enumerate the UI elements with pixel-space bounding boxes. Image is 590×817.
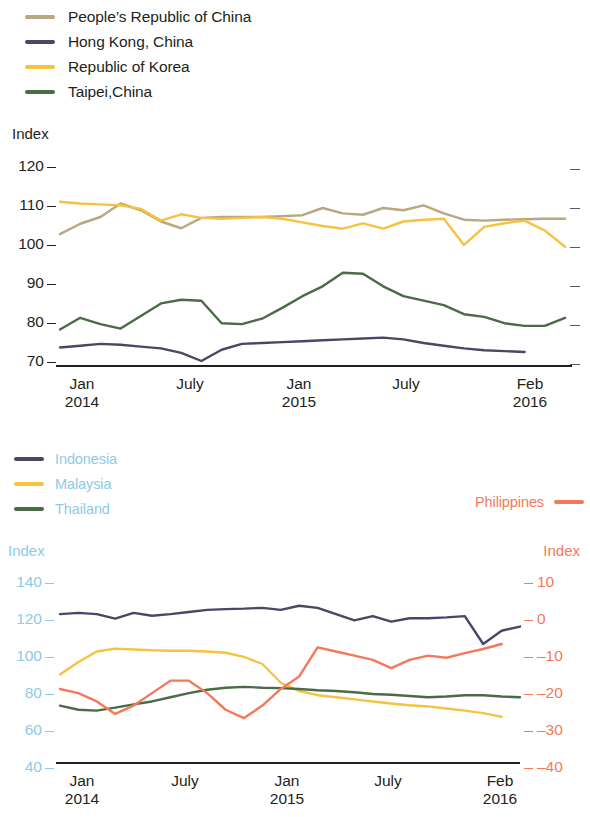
legend-item-hong-kong: Hong Kong, China (0, 29, 251, 54)
chart-2-xtick-jan-2015: Jan 2015 (270, 772, 304, 808)
chart-2-ytick-right-m20: –20 (524, 684, 586, 702)
chart-2-ytick-80: 80 (6, 684, 54, 702)
chart-page: People’s Republic of China Hong Kong, Ch… (0, 0, 590, 817)
line-swatch-icon-prc (25, 15, 55, 19)
series-line-hong-kong-china (60, 338, 525, 361)
chart-1-right-tick-90 (570, 286, 580, 287)
chart-2-xtick-july-2015: July (374, 772, 402, 790)
legend-label-malaysia: Malaysia (55, 476, 111, 492)
chart-1-right-tick-110 (570, 208, 580, 209)
chart-1-xtick-jan-2015: Jan 2015 (282, 375, 316, 411)
chart-2-ytick-60: 60 (6, 721, 54, 739)
chart-1-xtick-feb-2016: Feb 2016 (513, 375, 547, 411)
legend-item-prc: People’s Republic of China (0, 4, 251, 29)
chart-1-ytick-70: 70 (10, 352, 56, 370)
chart-2-plot-area (60, 560, 520, 768)
chart-1-ytick-80: 80 (10, 313, 56, 331)
chart-1-right-tick-100 (570, 247, 580, 248)
chart-1-xtick-july-2015: July (392, 375, 420, 393)
line-swatch-icon-korea (25, 65, 55, 69)
legend-item-taipei: Taipei,China (0, 79, 251, 104)
chart-1-right-tick-120 (570, 169, 580, 170)
legend-top: People’s Republic of China Hong Kong, Ch… (0, 4, 251, 104)
chart-1-x-axis (54, 361, 574, 371)
legend-item-thailand: Thailand (0, 496, 117, 521)
chart-2-ytick-right-m40: –40 (524, 758, 586, 776)
chart-1-ytick-110: 110 (10, 196, 56, 214)
chart-1-right-tick-80 (570, 325, 580, 326)
legend-item-philippines: Philippines (475, 494, 584, 510)
chart-2-ytick-40: 40 (6, 758, 54, 776)
legend-label-taipei: Taipei,China (68, 83, 152, 101)
line-swatch-icon-philippines (554, 500, 584, 504)
chart-2-ytick-120: 120 (6, 610, 54, 628)
legend-label-prc: People’s Republic of China (68, 8, 251, 26)
chart-1-ytick-100: 100 (10, 235, 56, 253)
series-line-taipei-china (60, 273, 565, 330)
chart-1-ytick-90: 90 (10, 274, 56, 292)
series-line-indonesia (60, 606, 520, 644)
line-swatch-icon-indonesia (14, 457, 44, 461)
chart-2-ytick-right-m10: –10 (524, 647, 586, 665)
chart-1-xtick-july-2014: July (176, 375, 204, 393)
chart-2-ytick-right-m30: –30 (524, 721, 586, 739)
line-swatch-icon-malaysia (14, 482, 44, 486)
legend-label-korea: Republic of Korea (68, 58, 190, 76)
chart-2-ytick-140: 140 (6, 573, 54, 591)
legend-label-philippines: Philippines (475, 494, 544, 510)
chart-1-ytick-120: 120 (10, 157, 56, 175)
chart-2-y-axis-title-right: Index (543, 542, 580, 559)
chart-2-xtick-jan-2014: Jan 2014 (65, 772, 99, 808)
chart-2-xtick-feb-2016: Feb 2016 (483, 772, 517, 808)
chart-1-plot-area (60, 145, 565, 370)
legend-label-thailand: Thailand (55, 501, 110, 517)
chart-2-y-axis-title-left: Index (8, 542, 45, 559)
chart-asean-index: Index Index 140 120 100 80 60 40 10 0 –1… (0, 530, 590, 817)
line-swatch-icon-taipei (25, 90, 55, 94)
legend-item-korea: Republic of Korea (0, 54, 251, 79)
chart-2-xtick-july-2014: July (171, 772, 199, 790)
legend-item-indonesia: Indonesia (0, 446, 117, 471)
legend-bottom: Indonesia Malaysia Thailand (0, 446, 117, 521)
line-swatch-icon-thailand (14, 507, 44, 511)
chart-asia-index: Index 120 110 100 90 80 70 Jan 2014 July… (0, 125, 590, 425)
chart-1-y-axis-title: Index (12, 125, 49, 142)
line-swatch-icon-hong-kong (25, 40, 55, 44)
legend-item-malaysia: Malaysia (0, 471, 117, 496)
chart-1-xtick-jan-2014: Jan 2014 (65, 375, 99, 411)
legend-label-hong-kong: Hong Kong, China (68, 33, 193, 51)
series-line-republic-of-korea (60, 202, 565, 247)
chart-2-ytick-100: 100 (6, 647, 54, 665)
legend-label-indonesia: Indonesia (55, 451, 117, 467)
chart-2-ytick-right-10: 10 (524, 573, 586, 591)
chart-2-x-axis (54, 758, 524, 768)
chart-2-ytick-right-0: 0 (524, 610, 586, 628)
